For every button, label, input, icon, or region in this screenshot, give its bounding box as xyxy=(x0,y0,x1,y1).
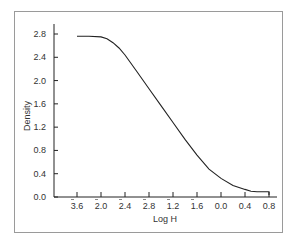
x-tick-label: 2.0 xyxy=(95,201,108,211)
y-tick-label: 0.4 xyxy=(33,169,46,179)
y-axis-title: Density xyxy=(22,100,32,131)
x-tick-label: 2.4 xyxy=(119,201,132,211)
y-tick-label: 1.2 xyxy=(33,122,46,132)
x-axis-title: Log H xyxy=(153,214,177,224)
x-tick-label: 0.8 xyxy=(263,201,276,211)
x-tick-label: 0.0 xyxy=(215,201,228,211)
x-tick-label: 2.8 xyxy=(143,201,156,211)
x-tick-label: 3.6 xyxy=(71,201,84,211)
y-tick-label: 2.0 xyxy=(33,76,46,86)
y-tick-label: 2.4 xyxy=(33,52,46,62)
y-tick-label: 1.6 xyxy=(33,99,46,109)
x-tick-label: 0.4 xyxy=(239,201,252,211)
y-tick-label: 0.8 xyxy=(33,145,46,155)
y-tick-label: 2.8 xyxy=(33,29,46,39)
x-axis-ticks: 3.62.02.42.81.21.60.00.40.8 xyxy=(71,192,276,211)
density-chart: 0.00.40.81.21.62.02.42.8 3.62.02.42.81.2… xyxy=(0,0,293,248)
x-tick-label: 1.2 xyxy=(167,201,180,211)
x-tick-label: 1.6 xyxy=(191,201,204,211)
axes xyxy=(54,24,277,197)
y-tick-label: 0.0 xyxy=(33,192,46,202)
chart-frame xyxy=(15,12,283,233)
density-curve xyxy=(77,36,269,195)
